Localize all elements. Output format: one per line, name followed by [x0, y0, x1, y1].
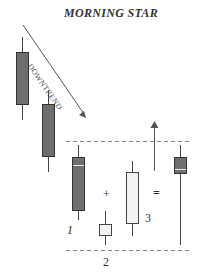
- up-arrow-icon: [151, 121, 159, 171]
- downtrend-candle-a: [17, 37, 29, 120]
- morning-star-diagram: [0, 0, 204, 275]
- candle-3: [127, 161, 139, 236]
- result-candle: [175, 145, 187, 245]
- candle-1-label: 1: [67, 223, 73, 238]
- candle-2-label: 2: [103, 255, 109, 270]
- plus-sign: +: [103, 187, 110, 202]
- candle-2: [100, 211, 112, 245]
- candle-1: [73, 145, 85, 220]
- candle-3-label: 3: [145, 211, 151, 226]
- equals-sign: =: [153, 186, 160, 201]
